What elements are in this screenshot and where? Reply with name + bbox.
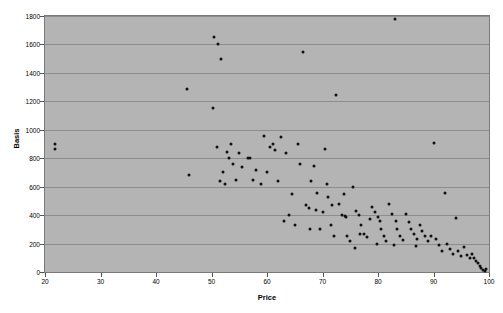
data-point	[346, 235, 349, 238]
data-point	[446, 242, 449, 245]
data-point	[451, 252, 454, 255]
data-point	[299, 162, 302, 165]
gridline	[45, 16, 489, 17]
x-tick-mark	[489, 273, 490, 277]
data-point	[385, 240, 388, 243]
x-tick-label: 50	[197, 278, 227, 285]
gridline	[45, 158, 489, 159]
data-point	[321, 211, 324, 214]
x-tick-mark	[212, 273, 213, 277]
data-point	[260, 182, 263, 185]
data-point	[302, 51, 305, 54]
data-point	[332, 235, 335, 238]
data-point	[404, 212, 407, 215]
data-point	[473, 256, 476, 259]
y-tick-label: 1400	[16, 69, 40, 76]
data-point	[212, 107, 215, 110]
data-point	[353, 246, 356, 249]
data-point	[185, 88, 188, 91]
y-tick-mark	[40, 244, 44, 245]
x-tick-mark	[45, 273, 46, 277]
x-tick-label: 40	[141, 278, 171, 285]
data-point	[390, 213, 393, 216]
data-point	[426, 240, 429, 243]
data-point	[293, 224, 296, 227]
data-point	[241, 166, 244, 169]
y-tick-label: 400	[16, 212, 40, 219]
y-tick-mark	[40, 272, 44, 273]
data-point	[296, 143, 299, 146]
y-tick-mark	[40, 44, 44, 45]
x-tick-mark	[434, 273, 435, 277]
data-point	[325, 182, 328, 185]
data-point	[440, 249, 443, 252]
data-point	[354, 209, 357, 212]
data-point	[268, 145, 271, 148]
y-tick-label: 200	[16, 240, 40, 247]
data-point	[309, 228, 312, 231]
x-tick-label: 100	[474, 278, 503, 285]
data-point	[460, 255, 463, 258]
data-point	[216, 145, 219, 148]
data-point	[415, 238, 418, 241]
data-point	[429, 234, 432, 237]
x-tick-mark	[267, 273, 268, 277]
data-point	[279, 135, 282, 138]
data-point	[229, 143, 232, 146]
data-point	[468, 257, 471, 260]
x-axis-tick-labels: 2030405060708090100	[44, 278, 490, 290]
gridline	[45, 44, 489, 45]
x-tick-label: 80	[363, 278, 393, 285]
data-point	[226, 150, 229, 153]
data-point	[421, 229, 424, 232]
data-point	[331, 204, 334, 207]
data-point	[465, 253, 468, 256]
data-point	[338, 202, 341, 205]
data-point	[217, 43, 220, 46]
y-tick-mark	[40, 16, 44, 17]
x-tick-label: 30	[86, 278, 116, 285]
data-point	[285, 151, 288, 154]
data-point	[335, 93, 338, 96]
scatter-chart: 020040060080010001200140016001800 203040…	[0, 0, 503, 313]
data-point	[463, 246, 466, 249]
data-point	[235, 178, 238, 181]
data-point	[220, 57, 223, 60]
x-tick-mark	[378, 273, 379, 277]
x-tick-mark	[323, 273, 324, 277]
data-point	[53, 147, 56, 150]
data-point	[282, 219, 285, 222]
data-point	[188, 173, 191, 176]
data-point	[368, 218, 371, 221]
data-point	[449, 247, 452, 250]
data-point	[360, 224, 363, 227]
x-tick-mark	[156, 273, 157, 277]
data-point	[377, 215, 380, 218]
data-point	[238, 152, 241, 155]
x-tick-label: 90	[419, 278, 449, 285]
data-point	[313, 165, 316, 168]
data-point	[432, 142, 435, 145]
data-point	[53, 143, 56, 146]
data-point	[401, 239, 404, 242]
gridline	[45, 101, 489, 102]
y-tick-label: 1200	[16, 98, 40, 105]
data-point	[388, 202, 391, 205]
x-tick-label: 70	[308, 278, 338, 285]
y-tick-mark	[40, 101, 44, 102]
data-point	[327, 195, 330, 198]
data-point	[454, 216, 457, 219]
data-point	[310, 179, 313, 182]
data-point	[382, 235, 385, 238]
plot-area	[44, 15, 490, 273]
data-point	[484, 268, 487, 271]
data-point	[290, 193, 293, 196]
gridline	[45, 244, 489, 245]
data-point	[218, 179, 221, 182]
data-point	[379, 228, 382, 231]
data-point	[254, 168, 257, 171]
data-point	[249, 156, 252, 159]
data-point	[435, 238, 438, 241]
data-point	[274, 148, 277, 151]
data-point	[231, 162, 234, 165]
